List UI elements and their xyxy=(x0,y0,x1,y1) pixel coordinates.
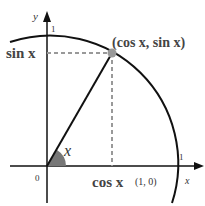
radius-line xyxy=(47,53,112,166)
y-one-label: 1 xyxy=(51,24,56,34)
y-axis-label: y xyxy=(32,10,38,22)
x-one-label: 1 xyxy=(179,152,184,162)
unit-circle-diagram: y 1 (cos x, sin x) sin x x 1 0 cos x (1,… xyxy=(0,0,205,206)
origin-label: 0 xyxy=(35,173,40,183)
y-axis-arrow xyxy=(43,11,51,22)
unit-point-label: (1, 0) xyxy=(135,176,157,188)
sin-label: sin x xyxy=(6,45,36,61)
x-axis-arrow xyxy=(194,162,204,170)
point-label: (cos x, sin x) xyxy=(112,35,185,51)
x-axis-label: x xyxy=(184,175,190,186)
angle-label: x xyxy=(63,142,71,159)
cos-label: cos x xyxy=(92,174,124,190)
